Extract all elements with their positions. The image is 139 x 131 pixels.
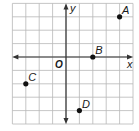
grid-lines	[12, 3, 133, 124]
x-axis-label: x	[126, 58, 133, 70]
point-label-a: A	[121, 4, 129, 16]
point-label-d: D	[82, 98, 90, 110]
coordinate-plane: yxO ABCD	[0, 0, 139, 131]
point-label-c: C	[28, 71, 36, 83]
y-axis-down-arrow-icon	[64, 118, 69, 124]
point-label-b: B	[95, 44, 102, 56]
y-axis-label: y	[69, 2, 77, 14]
x-axis-left-arrow-icon	[12, 55, 18, 60]
axes: yxO	[12, 2, 133, 124]
origin-label: O	[55, 59, 63, 70]
y-axis-up-arrow-icon	[64, 3, 69, 9]
